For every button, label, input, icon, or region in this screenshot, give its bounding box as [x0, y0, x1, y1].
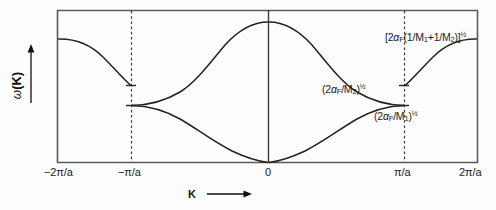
- y-axis-label-arg: (K): [9, 72, 24, 90]
- anno2-mid1: /M: [393, 110, 404, 122]
- anno1-exp: ½: [360, 83, 366, 90]
- anno0-mid2: +1/M: [428, 31, 451, 43]
- optical-branch-left: [58, 39, 131, 86]
- x-axis-arrow-icon: [207, 191, 252, 198]
- x-tick-label-pi-over-a: π/a: [394, 166, 410, 178]
- annotation-optical-branch-maximum: [2αF(1/M1+1/M2)]½: [385, 31, 466, 44]
- anno1-mid1: /M: [341, 83, 352, 95]
- x-tick-label-minus-pi-over-a: −π/a: [118, 166, 141, 178]
- y-axis-arrow-icon: [28, 44, 35, 103]
- anno0-mid1: (1/M: [404, 31, 424, 43]
- acoustic-branch-left: [132, 106, 268, 163]
- anno1-pre: (2: [322, 83, 331, 95]
- optical-branch-right: [405, 39, 477, 86]
- anno2-pre: (2: [374, 110, 383, 122]
- annotation-optical-zone-edge: (2αF/M2)½: [322, 83, 365, 96]
- y-axis-label: ω(K): [9, 56, 24, 116]
- x-tick-label-minus-2pi-over-a: −2π/a: [44, 166, 73, 178]
- x-tick-label-2pi-over-a: 2π/a: [459, 166, 481, 178]
- phonon-dispersion-figure: ω(K) K −2π/a −π/a 0 π/a 2π/a [2αF(1/M1+1…: [0, 0, 496, 210]
- x-axis-label: K: [188, 188, 196, 200]
- x-axis-label-text: K: [188, 188, 196, 200]
- optical-branch-center-left: [132, 22, 268, 106]
- x-tick-label-zero: 0: [265, 166, 271, 178]
- y-axis-label-omega: ω: [10, 90, 24, 99]
- band-edge-ticks: [126, 86, 409, 106]
- anno0-exp: ½: [461, 31, 467, 38]
- annotation-acoustic-zone-edge: (2αF/M1)½: [374, 110, 417, 123]
- anno2-exp: ½: [412, 110, 418, 117]
